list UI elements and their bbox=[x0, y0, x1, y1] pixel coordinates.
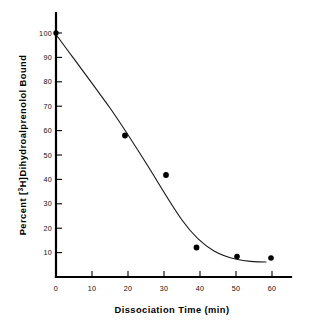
y-axis-title: Percent [3H]Dihydroalprenolol Bound bbox=[17, 55, 29, 236]
x-tick-label-50: 50 bbox=[232, 284, 241, 293]
y-tick-label-50: 50 bbox=[43, 151, 52, 160]
y-tick-label-40: 40 bbox=[43, 175, 52, 184]
data-point-50min bbox=[234, 254, 240, 260]
x-tick-label-60: 60 bbox=[268, 284, 277, 293]
y-tick-label-10: 10 bbox=[43, 248, 52, 257]
chart-figure: 100 90 80 70 60 50 40 30 20 10 0 10 20 3… bbox=[0, 0, 315, 328]
y-tick-label-30: 30 bbox=[43, 199, 52, 208]
x-tick-label-10: 10 bbox=[88, 284, 97, 293]
data-point-40min bbox=[194, 245, 200, 251]
data-point-30min bbox=[163, 172, 169, 178]
y-tick-label-20: 20 bbox=[43, 224, 52, 233]
x-tick-label-30: 30 bbox=[160, 284, 169, 293]
chart-background bbox=[0, 0, 315, 328]
data-point-60min bbox=[268, 255, 274, 261]
y-axis-title-prefix: Percent [ bbox=[18, 191, 28, 235]
y-tick-label-80: 80 bbox=[43, 77, 52, 86]
y-tick-label-70: 70 bbox=[43, 102, 52, 111]
y-axis-title-suffix: H]Dihydroalprenolol Bound bbox=[18, 55, 28, 188]
x-tick-label-40: 40 bbox=[196, 284, 205, 293]
data-point-0min bbox=[53, 30, 58, 35]
x-tick-label-0: 0 bbox=[54, 284, 58, 293]
dissociation-scatter-plot: 100 90 80 70 60 50 40 30 20 10 0 10 20 3… bbox=[0, 0, 315, 328]
y-tick-label-90: 90 bbox=[43, 53, 52, 62]
x-tick-label-20: 20 bbox=[124, 284, 133, 293]
y-tick-label-60: 60 bbox=[43, 126, 52, 135]
data-point-20min bbox=[122, 133, 128, 139]
x-axis-title: Dissociation Time (min) bbox=[114, 305, 229, 315]
y-tick-label-100: 100 bbox=[39, 29, 52, 38]
